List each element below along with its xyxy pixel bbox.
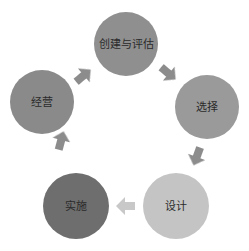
diagram-canvas: 创建与评估选择设计实施经营 (0, 0, 249, 251)
arrow-icon (50, 129, 72, 152)
cycle-diagram: 创建与评估选择设计实施经营 (0, 0, 249, 251)
node-label: 经营 (31, 95, 53, 109)
node-design: 设计 (143, 173, 209, 239)
node-operate: 经营 (10, 70, 74, 134)
arrow-icon (70, 63, 96, 89)
node-label: 实施 (65, 199, 87, 213)
arrow-icon (116, 197, 135, 215)
arrow-icon (185, 144, 208, 168)
node-label: 设计 (165, 200, 187, 213)
node-select: 选择 (175, 75, 239, 139)
node-create: 创建与评估 (94, 12, 158, 76)
node-label: 选择 (196, 100, 218, 114)
node-label: 创建与评估 (99, 37, 154, 51)
node-implement: 实施 (43, 173, 109, 239)
arrow-icon (155, 60, 181, 86)
